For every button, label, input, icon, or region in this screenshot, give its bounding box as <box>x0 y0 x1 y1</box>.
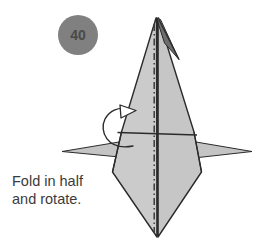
origami-illustration: 40 Fold in half and rotate. <box>0 0 264 250</box>
step-number-label: 40 <box>70 27 86 43</box>
caption-line-2: and rotate. <box>12 191 81 207</box>
step-number-badge: 40 <box>58 15 98 55</box>
origami-step-diagram: 40 Fold in half and rotate. <box>0 0 264 250</box>
caption-line-1: Fold in half <box>12 173 84 189</box>
